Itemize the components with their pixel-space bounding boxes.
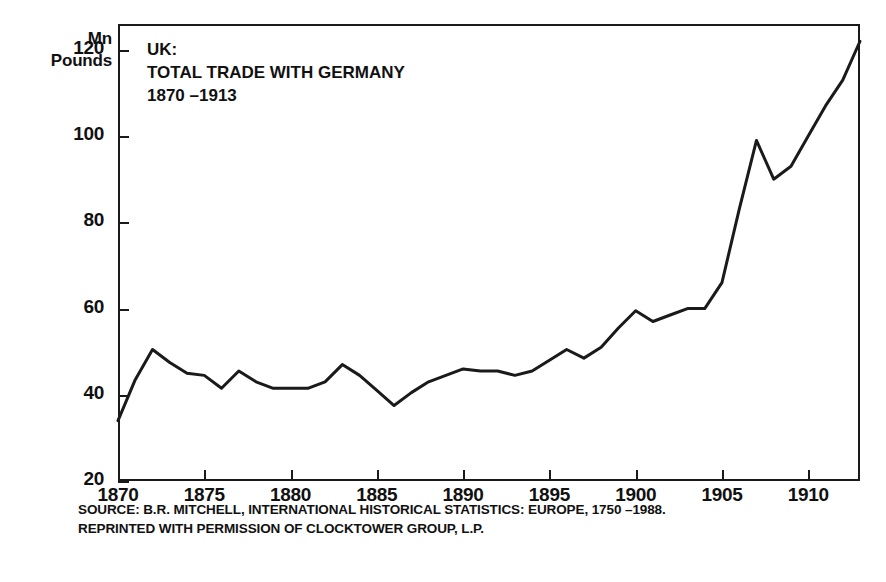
y-axis-tick-label: 80: [8, 209, 104, 231]
data-series-plot: [118, 24, 860, 481]
y-axis-tick-label: 100: [8, 123, 104, 145]
y-axis-tick-label: 60: [8, 296, 104, 318]
source-note-line-1: SOURCE: B.R. MITCHELL, INTERNATIONAL HIS…: [78, 500, 666, 519]
x-axis-tick-label: 1910: [768, 484, 848, 506]
y-axis-tick-label: 120: [8, 37, 104, 59]
chart-figure: Mn Pounds UK: TOTAL TRADE WITH GERMANY 1…: [0, 0, 886, 582]
source-note-line-2: REPRINTED WITH PERMISSION OF CLOCKTOWER …: [78, 519, 666, 538]
trade-line-series: [118, 41, 860, 420]
source-note: SOURCE: B.R. MITCHELL, INTERNATIONAL HIS…: [78, 500, 666, 538]
y-axis-tick-label: 40: [8, 382, 104, 404]
x-axis-tick-label: 1905: [682, 484, 762, 506]
y-axis-tick-mark: [118, 481, 129, 483]
